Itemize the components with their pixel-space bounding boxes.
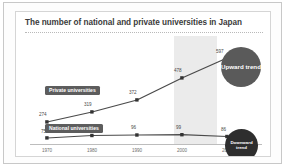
value-label-private-1970: 274 [39, 112, 47, 117]
value-label-national-1990: 96 [131, 125, 136, 130]
value-label-private-1980: 319 [84, 102, 92, 107]
chart-card: The number of national and private unive… [15, 11, 271, 157]
page-title: The number of national and private unive… [25, 18, 267, 27]
legend-badge-national: National universities [45, 124, 103, 133]
callout-upward-trend: Upward trend [221, 47, 261, 87]
value-label-national-2010: 86 [221, 127, 226, 132]
value-label-private-1990: 372 [129, 90, 137, 95]
value-label-private-2000: 478 [174, 68, 182, 73]
value-label-national-2000: 99 [176, 125, 181, 130]
x-tick-1970: 1970 [35, 148, 59, 153]
x-tick-2000: 2000 [170, 148, 194, 153]
slide-frame: The number of national and private unive… [3, 2, 282, 164]
x-tick-1980: 1980 [80, 148, 104, 153]
plot-area: 274 319 372 478 597 75 93 96 99 86 1970 … [16, 36, 270, 156]
value-label-private-2010: 597 [216, 49, 224, 54]
legend-badge-private: Private universities [45, 86, 100, 95]
x-tick-1990: 1990 [125, 148, 149, 153]
callout-downward-trend: Downward trend [225, 129, 258, 157]
title-divider [25, 32, 263, 33]
